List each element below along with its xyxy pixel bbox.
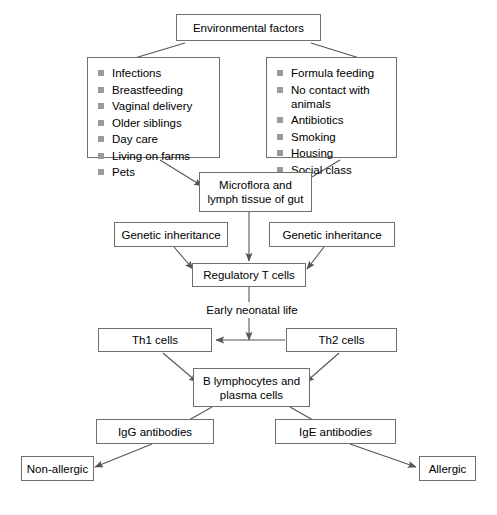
square-bullet-icon [98,169,104,175]
edge-igg-to-nonallergic [95,444,152,467]
edge-th2-to-blymph [306,353,339,382]
node-non-allergic[interactable]: Non-allergic [21,456,94,481]
node-igg-antibodies[interactable]: IgG antibodies [96,419,214,444]
list-item-label: Day care [112,132,158,146]
node-ige-antibodies-label: IgE antibodies [299,425,372,439]
list-item-label: Formula feeding [291,66,374,80]
list-item-label: Breastfeeding [112,83,183,97]
node-environmental-factors-label: Environmental factors [193,21,304,35]
node-microflora[interactable]: Microflora and lymph tissue of gut [199,172,312,212]
node-regulatory-t-cells-label: Regulatory T cells [203,268,295,282]
node-th1-cells[interactable]: Th1 cells [98,328,212,352]
edge-genetic-left-to-treg [174,247,193,269]
node-igg-antibodies-label: IgG antibodies [118,425,192,439]
label-early-neonatal-life: Early neonatal life [192,303,312,317]
flowchart-diagram: Environmental factors Infections Breastf… [0,0,497,515]
node-allergic[interactable]: Allergic [419,456,476,481]
list-item-label: Smoking [291,130,336,144]
list-item: Vaginal delivery [98,99,219,113]
square-bullet-icon [277,70,283,76]
node-th1-cells-label: Th1 cells [132,333,178,347]
list-item-label: Housing [291,146,333,160]
list-item-label: Vaginal delivery [112,99,192,113]
node-non-allergic-label: Non-allergic [27,462,88,476]
node-b-lymphocytes-label: B lymphocytes and plasma cells [203,374,300,402]
list-item-label: Living on farms [112,149,190,163]
square-bullet-icon [277,117,283,123]
list-item: No contact with animals [277,83,396,111]
node-th2-cells-label: Th2 cells [318,333,364,347]
list-item-label: Infections [112,66,161,80]
square-bullet-icon [98,70,104,76]
edge-genetic-right-to-treg [307,247,324,269]
edge-th1-to-blymph [163,353,197,382]
square-bullet-icon [98,136,104,142]
list-item: Older siblings [98,116,219,130]
node-genetic-inheritance-right[interactable]: Genetic inheritance [269,222,395,247]
label-early-neonatal-life-text: Early neonatal life [206,304,297,316]
list-item: Breastfeeding [98,83,219,97]
square-bullet-icon [277,150,283,156]
square-bullet-icon [98,87,104,93]
node-microflora-label: Microflora and lymph tissue of gut [208,178,304,206]
node-risk-factors-list[interactable]: Formula feeding No contact with animals … [266,57,397,158]
list-item: Housing [277,146,396,160]
node-genetic-inheritance-right-label: Genetic inheritance [282,228,381,242]
list-item-label: Antibiotics [291,113,343,127]
node-environmental-factors[interactable]: Environmental factors [176,14,321,41]
list-item: Infections [98,66,219,80]
node-th2-cells[interactable]: Th2 cells [286,328,397,352]
node-regulatory-t-cells[interactable]: Regulatory T cells [192,263,306,287]
square-bullet-icon [98,153,104,159]
node-protective-factors-list[interactable]: Infections Breastfeeding Vaginal deliver… [87,57,220,158]
list-item: Day care [98,132,219,146]
node-b-lymphocytes[interactable]: B lymphocytes and plasma cells [193,368,310,407]
node-genetic-inheritance-left[interactable]: Genetic inheritance [114,222,228,247]
node-genetic-inheritance-left-label: Genetic inheritance [121,228,220,242]
square-bullet-icon [98,103,104,109]
node-allergic-label: Allergic [429,462,467,476]
list-item-label: Pets [112,165,135,179]
connector-layer [0,0,497,515]
list-item-label: Older siblings [112,116,182,130]
node-ige-antibodies[interactable]: IgE antibodies [275,419,396,444]
edge-ige-to-allergic [350,444,416,467]
list-item: Living on farms [98,149,219,163]
list-item: Antibiotics [277,113,396,127]
square-bullet-icon [277,134,283,140]
list-item: Formula feeding [277,66,396,80]
list-item-label: No contact with animals [291,83,370,111]
list-item: Smoking [277,130,396,144]
square-bullet-icon [277,87,283,93]
square-bullet-icon [98,120,104,126]
